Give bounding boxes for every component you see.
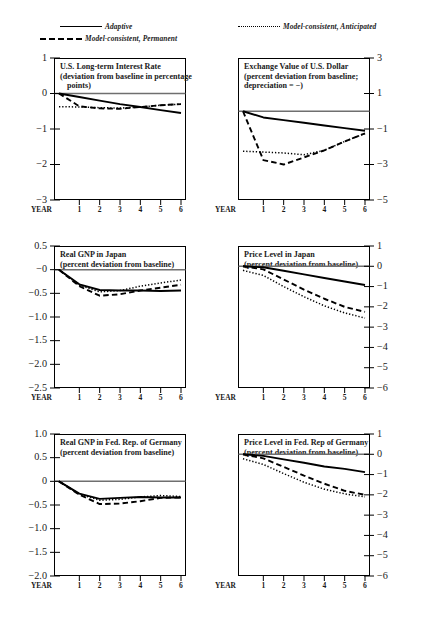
x-tick-label: 3 — [112, 205, 128, 214]
series-line-dotted — [243, 270, 365, 318]
x-tick-label: 5 — [153, 581, 169, 590]
series-line-solid — [59, 481, 181, 499]
series-line-dashed — [243, 266, 365, 312]
panel-exchange-value-us-dollar: Exchange Value of U.S. Dollar(percent de… — [216, 52, 411, 232]
chart-legend: AdaptiveModel-consistent, PermanentModel… — [0, 22, 425, 52]
x-tick-label: 6 — [357, 205, 373, 214]
x-tick-label: 6 — [173, 393, 189, 402]
y-tick-label: −2.5 — [18, 383, 47, 393]
x-tick-label: 3 — [296, 581, 312, 590]
x-tick-label: 3 — [112, 581, 128, 590]
y-tick-label: 0.5 — [18, 452, 47, 462]
series-line-solid — [59, 94, 181, 114]
x-tick-label: 1 — [71, 205, 87, 214]
y-tick-label: 0 — [377, 449, 382, 459]
x-tick-label: 6 — [173, 205, 189, 214]
y-tick-label: −3 — [377, 322, 388, 332]
x-axis-label: YEAR — [31, 393, 52, 402]
series-line-dashed — [243, 454, 365, 495]
panel-real-gnp-germany: Real GNP in Fed. Rep. of Germany(percent… — [18, 428, 210, 608]
y-tick-label: −5 — [377, 362, 388, 372]
x-tick-label: 2 — [276, 581, 292, 590]
y-tick-label: −1 — [377, 124, 388, 134]
y-tick-label: 0.5 — [18, 241, 47, 251]
x-tick-label: 6 — [357, 393, 373, 402]
y-tick-label: −1.5 — [18, 335, 47, 345]
x-tick-label: 5 — [337, 205, 353, 214]
series-line-dotted — [243, 133, 365, 154]
y-tick-label: −4 — [377, 342, 388, 352]
series-line-dashed — [243, 111, 365, 164]
y-tick-label: 1 — [377, 88, 382, 98]
series-line-dashed — [59, 481, 181, 504]
y-tick-label: −1 — [18, 124, 47, 134]
y-tick-label: −2 — [377, 301, 388, 311]
y-tick-label: −5 — [377, 195, 388, 205]
legend-label: Model-consistent, Permanent — [85, 34, 177, 43]
x-axis-label: YEAR — [215, 393, 236, 402]
legend-label: Model-consistent, Anticipated — [283, 22, 376, 31]
legend-item-dotted: Model-consistent, Anticipated — [238, 22, 376, 31]
x-axis-label: YEAR — [31, 581, 52, 590]
y-tick-label: 0 — [377, 261, 382, 271]
legend-swatch-solid-icon — [60, 24, 102, 29]
x-tick-label: 5 — [153, 393, 169, 402]
x-axis-label: YEAR — [215, 581, 236, 590]
y-tick-label: −1 — [377, 281, 388, 291]
legend-item-dashed: Model-consistent, Permanent — [40, 34, 177, 43]
y-tick-label: −2 — [377, 489, 388, 499]
y-tick-label: −1 — [377, 469, 388, 479]
x-tick-label: 3 — [296, 393, 312, 402]
x-axis-label: YEAR — [31, 205, 52, 214]
y-tick-label: −6 — [377, 383, 388, 393]
y-tick-label: −2.0 — [18, 359, 47, 369]
series-line-dotted — [59, 270, 181, 292]
x-axis-label: YEAR — [215, 205, 236, 214]
y-tick-label: 1 — [18, 53, 47, 63]
x-tick-label: 5 — [153, 205, 169, 214]
y-tick-label: 3 — [377, 53, 382, 63]
y-tick-label: −0.5 — [18, 500, 47, 510]
x-tick-label: 3 — [296, 205, 312, 214]
y-tick-label: 0 — [18, 88, 47, 98]
x-tick-label: 1 — [255, 393, 271, 402]
panel-price-level-germany: Price Level in Fed. Rep of Germany(perce… — [216, 428, 411, 608]
y-tick-label: −5 — [377, 550, 388, 560]
x-tick-label: 4 — [316, 393, 332, 402]
chart-row-1: U.S. Long-term Interest Rate(deviation f… — [0, 52, 425, 232]
y-tick-label: 1 — [377, 241, 382, 251]
panel-real-gnp-japan: Real GNP in Japan(percent deviation from… — [18, 240, 210, 420]
y-tick-label: −0 — [18, 264, 47, 274]
x-tick-label: 4 — [132, 581, 148, 590]
x-tick-label: 2 — [276, 393, 292, 402]
y-tick-label: −3 — [377, 159, 388, 169]
legend-label: Adaptive — [105, 22, 132, 31]
legend-swatch-dotted-icon — [238, 24, 280, 29]
y-tick-label: −2.0 — [18, 571, 47, 581]
x-tick-label: 6 — [357, 581, 373, 590]
x-tick-label: 5 — [337, 393, 353, 402]
x-tick-label: 2 — [92, 581, 108, 590]
x-tick-label: 6 — [173, 581, 189, 590]
x-tick-label: 4 — [316, 205, 332, 214]
y-tick-label: −6 — [377, 571, 388, 581]
x-tick-label: 1 — [255, 205, 271, 214]
series-line-solid — [59, 270, 181, 291]
x-tick-label: 2 — [276, 205, 292, 214]
y-tick-label: −3 — [18, 195, 47, 205]
legend-swatch-dashed-icon — [40, 36, 82, 41]
x-tick-label: 2 — [92, 205, 108, 214]
y-tick-label: 1.0 — [18, 429, 47, 439]
y-tick-label: −1.5 — [18, 547, 47, 557]
y-tick-label: −0.5 — [18, 288, 47, 298]
legend-item-solid: Adaptive — [60, 22, 132, 31]
chart-row-2: Real GNP in Japan(percent deviation from… — [0, 240, 425, 420]
y-tick-label: −1.0 — [18, 523, 47, 533]
y-tick-label: 1 — [377, 429, 382, 439]
x-tick-label: 1 — [71, 393, 87, 402]
x-tick-label: 3 — [112, 393, 128, 402]
y-tick-label: −4 — [377, 530, 388, 540]
x-tick-label: 1 — [71, 581, 87, 590]
series-line-solid — [243, 111, 365, 131]
y-tick-label: −3 — [377, 510, 388, 520]
